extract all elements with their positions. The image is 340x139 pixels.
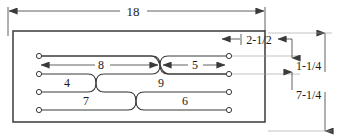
endpoint-right-1[interactable] bbox=[226, 53, 231, 58]
endpoint-left-1[interactable] bbox=[36, 53, 41, 58]
segment-label-row2-right: 9 bbox=[158, 76, 164, 90]
dim-label-row-spacing: 1-1/4 bbox=[296, 59, 321, 73]
endpoint-left-3[interactable] bbox=[36, 89, 41, 94]
drawing-canvas: 18 2-1/2 1-1/4 7-1/4 8 5 4 9 7 6 bbox=[0, 0, 340, 139]
endpoint-left-4[interactable] bbox=[36, 107, 41, 112]
technical-drawing: 18 2-1/2 1-1/4 7-1/4 8 5 4 9 7 6 bbox=[0, 0, 340, 139]
segment-label-row3-left: 7 bbox=[83, 94, 89, 108]
segment-label-row3-right: 6 bbox=[182, 94, 188, 108]
segment-label-row2-left: 4 bbox=[64, 76, 70, 90]
dim-label-right-offset: 2-1/2 bbox=[246, 33, 271, 47]
segment-label-row1-left: 8 bbox=[98, 58, 104, 72]
endpoint-left-2[interactable] bbox=[36, 71, 41, 76]
segment-label-row1-right: 5 bbox=[192, 58, 198, 72]
endpoint-right-3[interactable] bbox=[226, 89, 231, 94]
dim-label-overall-width: 18 bbox=[127, 4, 140, 19]
endpoint-right-4[interactable] bbox=[226, 107, 231, 112]
endpoint-right-2[interactable] bbox=[226, 71, 231, 76]
dim-label-overall-height: 7-1/4 bbox=[296, 88, 321, 102]
